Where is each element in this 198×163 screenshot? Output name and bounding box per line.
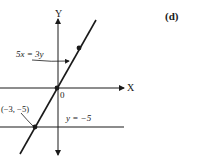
- panel-label: (d): [165, 11, 178, 22]
- origin-label: 0: [60, 91, 65, 100]
- point-minus3-minus5: [33, 125, 38, 130]
- pointer-arrow-5x-3y: [32, 60, 69, 61]
- point-label: (−3, −5): [1, 105, 29, 114]
- equation-label-slanted: 5x = 3y: [16, 50, 44, 59]
- graph-canvas: [0, 0, 198, 163]
- diagram-figure: Y X 0 5x = 3y y = −5 (−3, −5) (d): [0, 0, 198, 163]
- pointer-arrow-point: [21, 113, 33, 126]
- y-axis-label: Y: [55, 9, 62, 19]
- point-3-5: [77, 46, 82, 51]
- x-axis-label: X: [127, 83, 134, 93]
- equation-label-horizontal: y = −5: [66, 114, 91, 123]
- point-origin: [55, 86, 60, 91]
